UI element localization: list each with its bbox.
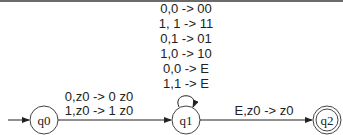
loop-label-3: 0,1 -> 01 bbox=[160, 31, 212, 46]
state-q1[interactable]: q1 bbox=[172, 106, 200, 134]
transition-q0-q1-label-1: 0,z0 -> 0 z0 bbox=[65, 89, 133, 104]
loop-label-5: 0,0 -> E bbox=[163, 61, 209, 76]
state-q0-label: q0 bbox=[38, 113, 51, 128]
loop-label-4: 1,0 -> 10 bbox=[160, 46, 212, 61]
transition-q1-q2-label: E,z0 -> z0 bbox=[235, 103, 294, 118]
state-q2-label: q2 bbox=[321, 113, 334, 128]
state-q0[interactable]: q0 bbox=[30, 106, 58, 134]
pda-diagram: q0 0,z0 -> 0 z0 1,z0 -> 1 z0 0,0 -> 00 1… bbox=[0, 0, 343, 135]
transition-q0-q1-label-2: 1,z0 -> 1 z0 bbox=[65, 103, 133, 118]
self-loop-q1 bbox=[178, 96, 194, 107]
loop-label-6: 1,1 -> E bbox=[163, 76, 209, 91]
state-q1-label: q1 bbox=[180, 113, 193, 128]
loop-label-1: 0,0 -> 00 bbox=[160, 1, 212, 16]
state-q2[interactable]: q2 bbox=[313, 106, 341, 134]
loop-label-2: 1, 1 -> 11 bbox=[159, 16, 213, 31]
